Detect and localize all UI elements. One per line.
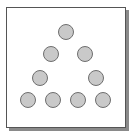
- circle-icon: [43, 46, 59, 62]
- circle-icon: [32, 70, 48, 86]
- circle-icon: [70, 92, 86, 108]
- circle-icon: [58, 24, 74, 40]
- circle-icon: [77, 46, 93, 62]
- circle-icon: [88, 70, 104, 86]
- circle-icon: [20, 92, 36, 108]
- circle-icon: [45, 92, 61, 108]
- circle-icon: [95, 92, 111, 108]
